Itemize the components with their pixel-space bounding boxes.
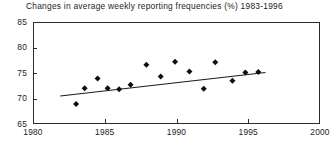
data-point-layer: [0, 0, 331, 145]
data-point: [116, 86, 122, 92]
data-point: [128, 82, 134, 88]
data-point: [73, 101, 79, 107]
data-point: [82, 85, 88, 91]
x-axis-tick-label: 2000: [300, 127, 331, 137]
y-axis-tick-label: 70: [5, 93, 27, 103]
x-axis-tick-mark: [177, 119, 178, 124]
x-axis-tick-mark: [248, 119, 249, 124]
y-axis-tick-mark: [33, 99, 37, 100]
x-axis-tick-mark: [105, 119, 106, 124]
chart-container: Changes in average weekly reporting freq…: [0, 0, 331, 145]
x-axis-tick-label: 1985: [85, 127, 125, 137]
data-point: [95, 76, 101, 82]
data-point: [229, 78, 235, 84]
data-point: [186, 68, 192, 74]
y-axis-tick-mark: [33, 73, 37, 74]
y-axis-tick-label: 75: [5, 68, 27, 78]
y-axis-tick-label: 80: [5, 42, 27, 52]
y-axis-tick-mark: [33, 48, 37, 49]
data-point: [143, 62, 149, 68]
data-point: [172, 59, 178, 65]
data-point: [105, 85, 111, 91]
data-point: [212, 59, 218, 65]
data-point: [242, 69, 248, 75]
data-point: [201, 86, 207, 92]
data-point: [158, 74, 164, 80]
data-point: [255, 69, 261, 75]
x-axis-tick-label: 1980: [13, 127, 53, 137]
y-axis-tick-label: 85: [5, 17, 27, 27]
x-axis-tick-label: 1995: [228, 127, 268, 137]
x-axis-tick-label: 1990: [157, 127, 197, 137]
